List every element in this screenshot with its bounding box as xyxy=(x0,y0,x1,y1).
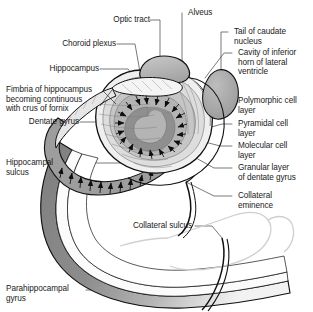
label-hippocampal-sulcus: Hippocampal sulcus xyxy=(6,158,88,177)
label-granular-layer: Granular layer of dentate gyrus xyxy=(238,163,313,182)
hippocampus-diagram: Optic tract Alveus Choroid plexus Tail o… xyxy=(0,0,313,312)
label-choroid-plexus: Choroid plexus xyxy=(30,39,116,49)
label-alveus: Alveus xyxy=(188,8,258,18)
label-optic-tract: Optic tract xyxy=(56,15,150,25)
label-pyramidal-cell-layer: Pyramidal cell layer xyxy=(238,119,313,138)
label-dentate-gyrus: Dentate gyrus xyxy=(4,117,79,127)
label-collateral-eminence: Collateral eminence xyxy=(238,191,312,210)
label-collateral-sulcus: Collateral sulcus xyxy=(106,221,192,231)
collateral-sulcus-outline-2 xyxy=(268,217,294,252)
collateral-sulcus-outline-3 xyxy=(120,238,168,246)
label-parahippocampal-gyrus: Parahippocampal gyrus xyxy=(6,284,94,303)
label-cavity-of-inferior-horn: Cavity of inferior horn of lateral ventr… xyxy=(238,48,313,77)
label-fimbria-of-hippocampus: Fimbria of hippocampus becoming continuo… xyxy=(6,85,128,114)
label-polymorphic-cell-layer: Polymorphic cell layer xyxy=(238,96,313,115)
label-molecular-cell-layer: Molecular cell layer xyxy=(238,141,313,160)
tail-of-caudate-nucleus xyxy=(203,70,239,119)
label-hippocampus: Hippocampus xyxy=(18,64,99,74)
label-tail-of-caudate-nucleus: Tail of caudate nucleus xyxy=(234,27,313,46)
